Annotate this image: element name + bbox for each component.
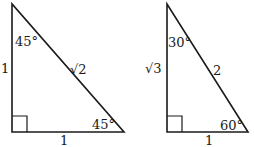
base-label: 1 [205, 134, 213, 147]
bottom-angle-label: 45° [92, 118, 115, 131]
right-angle-marker [167, 116, 182, 132]
vertical-side-label: 1 [1, 62, 9, 75]
hypotenuse-label: 2 [213, 64, 221, 77]
triangle-outline [12, 4, 124, 132]
hypotenuse-label: √2 [70, 63, 87, 76]
triangle-45-45-90 [12, 4, 124, 132]
top-angle-label: 30° [168, 36, 191, 49]
vertical-side-label: √3 [145, 62, 162, 75]
base-label: 1 [60, 134, 68, 147]
bottom-angle-label: 60° [220, 119, 243, 132]
right-angle-marker [12, 116, 27, 132]
top-angle-label: 45° [15, 35, 38, 48]
triangle-outline [167, 4, 248, 132]
triangle-30-60-90 [167, 4, 248, 132]
